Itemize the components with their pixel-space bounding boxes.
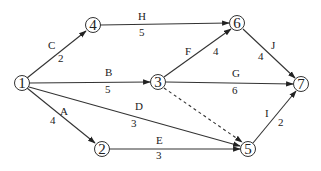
node-7: 7	[294, 76, 309, 92]
edge-g: G 6	[166, 67, 293, 96]
edge-f-duration: 4	[213, 45, 219, 57]
edge-g-duration: 6	[232, 84, 238, 96]
edge-g-activity: G	[232, 67, 240, 79]
edge-f-activity: F	[185, 45, 191, 57]
edge-i-activity: I	[265, 107, 269, 119]
node-5: 5	[241, 141, 256, 157]
edge-j-duration: 4	[258, 50, 264, 62]
node-5-label: 5	[244, 141, 252, 157]
node-3: 3	[151, 74, 166, 90]
edge-b: B 5	[29, 66, 150, 95]
node-3-label: 3	[154, 74, 162, 90]
node-6-label: 6	[233, 15, 241, 31]
edge-h: H 5	[100, 10, 229, 38]
edge-b-duration: 5	[105, 83, 111, 95]
edge-h-duration: 5	[139, 26, 145, 38]
edge-d-activity: D	[135, 100, 143, 112]
node-1-label: 1	[18, 75, 26, 91]
edge-e: E 3	[109, 134, 240, 161]
node-4: 4	[86, 17, 101, 33]
edge-j: J 4	[243, 29, 295, 78]
node-2-label: 2	[98, 141, 106, 157]
edge-i: I 2	[253, 91, 296, 143]
node-2: 2	[95, 141, 110, 157]
edge-a-activity: A	[60, 105, 68, 117]
network-diagram: C 2 B 5 D 3 A 4	[0, 0, 321, 171]
node-7-label: 7	[297, 76, 305, 92]
edge-c-activity: C	[48, 39, 55, 51]
edge-c-duration: 2	[58, 52, 64, 64]
edge-dummy-3-5	[164, 88, 242, 142]
edge-b-activity: B	[105, 66, 112, 78]
node-4-label: 4	[89, 17, 97, 33]
node-1: 1	[15, 75, 30, 91]
edge-e-duration: 3	[156, 149, 162, 161]
edge-a-duration: 4	[50, 114, 56, 126]
edge-e-activity: E	[156, 134, 163, 146]
edge-d-duration: 3	[131, 117, 137, 129]
edge-i-duration: 2	[278, 116, 284, 128]
edge-j-activity: J	[271, 39, 276, 51]
node-6: 6	[230, 15, 245, 31]
edge-h-activity: H	[138, 10, 146, 22]
edge-f: F 4	[164, 29, 231, 77]
edge-c: C 2	[27, 31, 86, 78]
